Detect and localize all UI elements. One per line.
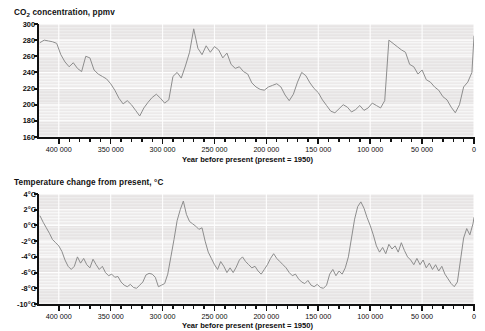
y-tick-mark bbox=[34, 224, 39, 226]
x-tick-label: 150 000 bbox=[292, 312, 344, 321]
x-tick-mark-minor bbox=[380, 139, 381, 142]
x-tick-mark-minor bbox=[328, 139, 329, 142]
x-tick-label: 0 bbox=[448, 145, 485, 154]
y-tick-mark bbox=[34, 272, 39, 274]
x-tick-mark-minor bbox=[193, 306, 194, 309]
x-tick-mark-major bbox=[110, 139, 112, 144]
y-tick-label: -6°C bbox=[0, 268, 36, 277]
x-tick-label: 100 000 bbox=[344, 312, 396, 321]
x-tick-mark-major bbox=[317, 306, 319, 311]
x-tick-mark-minor bbox=[307, 139, 308, 142]
co2-chart-panel: CO2 concentration, ppmv 3002802602402202… bbox=[0, 0, 485, 168]
y-tick-label: -4°C bbox=[0, 252, 36, 261]
y-tick-label: 4°C bbox=[0, 190, 36, 199]
x-tick-mark-major bbox=[58, 139, 60, 144]
x-tick-mark-minor bbox=[390, 306, 391, 309]
co2-chart-title: CO2 concentration, ppmv bbox=[14, 8, 115, 17]
y-tick-mark bbox=[34, 23, 39, 25]
x-tick-mark-minor bbox=[297, 139, 298, 142]
x-tick-mark-major bbox=[162, 306, 164, 311]
y-tick-mark bbox=[34, 39, 39, 41]
x-tick-mark-minor bbox=[442, 139, 443, 142]
x-tick-mark-minor bbox=[453, 139, 454, 142]
x-tick-mark-minor bbox=[338, 306, 339, 309]
x-tick-mark-minor bbox=[89, 139, 90, 142]
y-tick-label: 240 bbox=[0, 68, 35, 77]
y-tick-mark bbox=[34, 287, 39, 289]
x-tick-mark-major bbox=[58, 306, 60, 311]
x-tick-mark-major bbox=[421, 139, 423, 144]
x-tick-label: 150 000 bbox=[292, 145, 344, 154]
x-tick-label: 400 000 bbox=[33, 312, 85, 321]
y-tick-mark bbox=[34, 193, 39, 195]
x-tick-mark-minor bbox=[276, 306, 277, 309]
x-tick-mark-minor bbox=[287, 306, 288, 309]
x-tick-mark-minor bbox=[411, 306, 412, 309]
x-tick-label: 250 000 bbox=[188, 312, 240, 321]
y-tick-mark bbox=[34, 240, 39, 242]
co2-title-subscript: 2 bbox=[26, 11, 30, 18]
x-tick-mark-major bbox=[473, 139, 475, 144]
x-tick-mark-minor bbox=[338, 139, 339, 142]
y-tick-label: 280 bbox=[0, 36, 35, 45]
x-tick-label: 50 000 bbox=[396, 312, 448, 321]
y-tick-mark bbox=[34, 120, 39, 122]
y-tick-mark bbox=[34, 136, 39, 138]
x-tick-mark-minor bbox=[432, 139, 433, 142]
y-tick-mark bbox=[34, 104, 39, 106]
co2-title-prefix: CO bbox=[14, 8, 26, 17]
vostok-ice-core-figure: CO2 concentration, ppmv 3002802602402202… bbox=[0, 0, 485, 331]
x-tick-mark-minor bbox=[307, 306, 308, 309]
x-tick-mark-minor bbox=[255, 306, 256, 309]
y-tick-label: 200 bbox=[0, 100, 35, 109]
x-tick-label: 300 000 bbox=[137, 312, 189, 321]
y-tick-label: 220 bbox=[0, 84, 35, 93]
y-tick-mark bbox=[34, 209, 39, 211]
temperature-x-axis-caption: Year before present (present = 1950) bbox=[182, 321, 313, 330]
x-tick-label: 350 000 bbox=[85, 312, 137, 321]
temperature-chart-panel: Temperature change from present, °C 4°C2… bbox=[0, 168, 485, 331]
x-tick-mark-minor bbox=[172, 306, 173, 309]
y-tick-label: 160 bbox=[0, 133, 35, 142]
x-tick-mark-minor bbox=[276, 139, 277, 142]
x-tick-mark-minor bbox=[203, 139, 204, 142]
y-tick-label: 180 bbox=[0, 116, 35, 125]
co2-plot-area bbox=[38, 24, 474, 137]
x-tick-mark-minor bbox=[141, 306, 142, 309]
x-tick-mark-minor bbox=[120, 139, 121, 142]
y-tick-label: 260 bbox=[0, 52, 35, 61]
x-tick-mark-minor bbox=[131, 306, 132, 309]
x-tick-mark-minor bbox=[359, 306, 360, 309]
x-tick-mark-minor bbox=[89, 306, 90, 309]
co2-title-suffix: concentration, ppmv bbox=[30, 8, 115, 17]
temperature-plot-area bbox=[38, 194, 474, 304]
x-tick-mark-minor bbox=[442, 306, 443, 309]
y-tick-label: 0°C bbox=[0, 221, 36, 230]
y-tick-mark bbox=[34, 55, 39, 57]
x-tick-mark-minor bbox=[432, 306, 433, 309]
x-tick-mark-minor bbox=[235, 139, 236, 142]
x-tick-mark-minor bbox=[401, 139, 402, 142]
x-tick-mark-minor bbox=[100, 306, 101, 309]
y-tick-label: -2°C bbox=[0, 237, 36, 246]
y-tick-label: 2°C bbox=[0, 205, 36, 214]
x-tick-mark-minor bbox=[224, 306, 225, 309]
x-tick-mark-minor bbox=[152, 306, 153, 309]
temperature-plot-svg bbox=[38, 194, 474, 304]
x-tick-mark-major bbox=[421, 306, 423, 311]
x-tick-mark-minor bbox=[401, 306, 402, 309]
x-tick-mark-minor bbox=[69, 306, 70, 309]
x-tick-mark-minor bbox=[245, 306, 246, 309]
x-tick-label: 100 000 bbox=[344, 145, 396, 154]
x-tick-mark-major bbox=[214, 306, 216, 311]
x-tick-mark-minor bbox=[79, 139, 80, 142]
temperature-chart-title: Temperature change from present, °C bbox=[14, 178, 163, 187]
x-tick-mark-minor bbox=[120, 306, 121, 309]
x-tick-mark-minor bbox=[390, 139, 391, 142]
x-tick-mark-minor bbox=[453, 306, 454, 309]
x-tick-mark-major bbox=[369, 139, 371, 144]
x-tick-mark-minor bbox=[100, 139, 101, 142]
x-tick-mark-minor bbox=[183, 139, 184, 142]
x-tick-mark-minor bbox=[463, 306, 464, 309]
x-tick-mark-minor bbox=[193, 139, 194, 142]
